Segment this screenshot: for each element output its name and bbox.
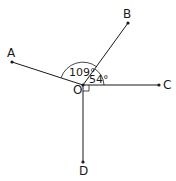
label-B: B: [123, 7, 131, 21]
angle-BOC-label: 54°: [89, 73, 109, 86]
angle-diagram: A B C D O 109° 54°: [0, 0, 176, 181]
label-A: A: [7, 46, 16, 60]
point-A: [10, 60, 13, 63]
point-C: [157, 83, 160, 86]
point-B: [126, 21, 129, 24]
label-D: D: [79, 164, 88, 178]
label-C: C: [163, 78, 171, 92]
label-O: O: [73, 83, 82, 97]
